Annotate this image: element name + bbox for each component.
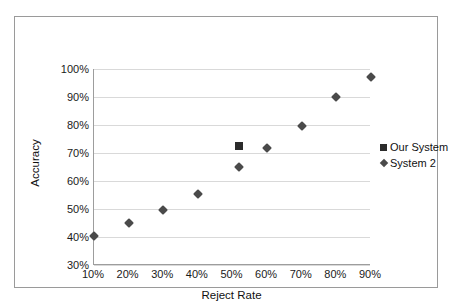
y-tick-label: 90%: [47, 92, 89, 103]
legend-label: Our System: [390, 142, 448, 153]
legend-item: Our System: [377, 139, 453, 155]
gridline-y: [94, 181, 370, 182]
data-point: [366, 72, 376, 82]
y-tick-label: 50%: [47, 204, 89, 215]
data-point: [234, 162, 244, 172]
x-axis-tick-labels: 10%20%30%40%50%60%70%80%90%: [93, 269, 370, 285]
square-marker-icon: [377, 144, 390, 151]
x-axis-title: Reject Rate: [93, 289, 370, 301]
y-tick-label: 100%: [47, 64, 89, 75]
data-point: [235, 142, 243, 150]
y-tick-label: 80%: [47, 120, 89, 131]
data-point: [297, 121, 307, 131]
data-point: [158, 205, 168, 215]
gridline-y: [94, 125, 370, 126]
data-point: [124, 218, 134, 228]
gridline-y: [94, 265, 370, 266]
gridline-y: [94, 209, 370, 210]
legend-label: System 2: [390, 158, 436, 169]
y-axis-title: Accuracy: [29, 103, 41, 223]
data-point: [262, 143, 272, 153]
diamond-marker-icon: [377, 160, 390, 166]
chart-frame: 30%40%50%60%70%80%90%100% 10%20%30%40%50…: [14, 16, 438, 288]
plot-area: [93, 69, 370, 265]
data-point: [331, 92, 341, 102]
gridline-y: [94, 237, 370, 238]
data-point: [193, 189, 203, 199]
y-axis-tick-labels: 30%40%50%60%70%80%90%100%: [45, 69, 89, 265]
chart-legend: Our SystemSystem 2: [377, 139, 453, 171]
x-tick-label: 90%: [348, 269, 392, 280]
gridline-y: [94, 69, 370, 70]
gridline-y: [94, 97, 370, 98]
y-tick-label: 70%: [47, 148, 89, 159]
legend-item: System 2: [377, 155, 453, 171]
y-tick-label: 60%: [47, 176, 89, 187]
y-tick-label: 40%: [47, 232, 89, 243]
data-point: [89, 231, 99, 241]
gridline-y: [94, 153, 370, 154]
